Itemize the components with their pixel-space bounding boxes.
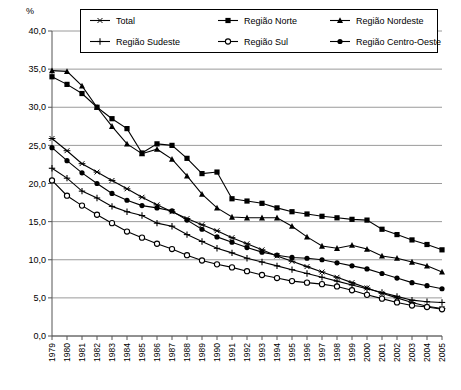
x-axis-tick-label: 1998 — [332, 343, 342, 362]
x-axis-tick-label: 1980 — [62, 343, 72, 362]
y-axis-tick-label: 0,0 — [33, 331, 46, 341]
legend-item: Total — [89, 15, 217, 26]
x-axis-tick-label: 2000 — [362, 343, 372, 362]
gridlines: 0,05,010,015,020,025,030,035,040,0 — [28, 26, 442, 341]
x-axis-tick-label: 1985 — [137, 343, 147, 362]
x-axis-tick-label: 1984 — [122, 343, 132, 362]
y-axis-tick-label: 40,0 — [28, 26, 46, 36]
chart-svg: 0,05,010,015,020,025,030,035,040,0197919… — [0, 0, 461, 390]
y-axis-tick-label: 15,0 — [28, 217, 46, 227]
x-axis-tick-label: 1997 — [317, 343, 327, 362]
x-axis-tick-label: 2005 — [437, 343, 447, 362]
x-axis-tick-label: 1994 — [272, 343, 282, 362]
x-axis-tick-label: 1983 — [107, 343, 117, 362]
chart-series — [49, 136, 446, 311]
y-axis-tick-label: 25,0 — [28, 141, 46, 151]
circle-open-marker-icon — [217, 36, 239, 47]
legend-item: Região Centro-Oeste — [329, 36, 441, 47]
x-axis-tick-label: 1981 — [77, 343, 87, 362]
legend-label: Região Centro-Oeste — [356, 37, 441, 47]
plot-area: 0,05,010,015,020,025,030,035,040,0197919… — [0, 0, 461, 390]
x-axis-tick-label: 1989 — [197, 343, 207, 362]
x-axis-tick-label: 1999 — [347, 343, 357, 362]
y-axis-tick-label: 20,0 — [28, 179, 46, 189]
y-axis-tick-label: 30,0 — [28, 102, 46, 112]
x-axis-tick-label: 2002 — [392, 343, 402, 362]
x-axis-tick-label: 1993 — [257, 343, 267, 362]
y-axis-tick-label: 10,0 — [28, 255, 46, 265]
x-axis-labels: 1979198019811982198319841985198619871988… — [47, 336, 447, 362]
x-axis-tick-label: 1990 — [212, 343, 222, 362]
legend-label: Região Nordeste — [356, 16, 424, 26]
legend-item: Região Sul — [217, 36, 329, 47]
legend-item: Região Norte — [217, 15, 329, 26]
legend-item: Região Sudeste — [89, 36, 217, 47]
triangle-marker-icon — [329, 15, 351, 26]
square-marker-icon — [217, 15, 239, 26]
x-axis-tick-label: 1979 — [47, 343, 57, 362]
x-axis-tick-label: 1982 — [92, 343, 102, 362]
x-axis-tick-label: 1995 — [287, 343, 297, 362]
chart-series — [49, 165, 445, 306]
x-axis-tick-label: 1987 — [167, 343, 177, 362]
star-marker-icon — [89, 15, 111, 26]
circle-filled-marker-icon — [329, 36, 351, 47]
y-axis-tick-label: 5,0 — [33, 293, 46, 303]
chart-legend: TotalRegião NorteRegião NordesteRegião S… — [80, 9, 438, 53]
chart-series — [49, 74, 444, 252]
x-axis-tick-label: 1996 — [302, 343, 312, 362]
legend-label: Região Norte — [244, 16, 297, 26]
plus-marker-icon — [89, 36, 111, 47]
chart-series — [49, 178, 444, 312]
x-axis-tick-label: 1991 — [227, 343, 237, 362]
y-axis-tick-label: 35,0 — [28, 64, 46, 74]
x-axis-tick-label: 1992 — [242, 343, 252, 362]
legend-label: Total — [116, 16, 135, 26]
legend-label: Região Sul — [244, 37, 288, 47]
x-axis-tick-label: 2004 — [422, 343, 432, 362]
x-axis-tick-label: 2001 — [377, 343, 387, 362]
legend-item: Região Nordeste — [329, 15, 441, 26]
legend-label: Região Sudeste — [116, 37, 180, 47]
x-axis-tick-label: 2003 — [407, 343, 417, 362]
x-axis-tick-label: 1986 — [152, 343, 162, 362]
chart-figure: % TotalRegião NorteRegião NordesteRegião… — [0, 0, 461, 390]
x-axis-tick-label: 1988 — [182, 343, 192, 362]
